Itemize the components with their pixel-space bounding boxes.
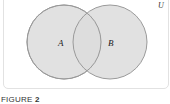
figure-caption: FIGURE 2 (1, 95, 40, 104)
set-b-label: B (108, 38, 114, 48)
venn-diagram: A B U (0, 0, 170, 104)
universe-label: U (158, 1, 165, 10)
set-a-label: A (57, 38, 64, 48)
caption-prefix: FIGURE (1, 95, 32, 104)
caption-number: 2 (35, 95, 40, 104)
